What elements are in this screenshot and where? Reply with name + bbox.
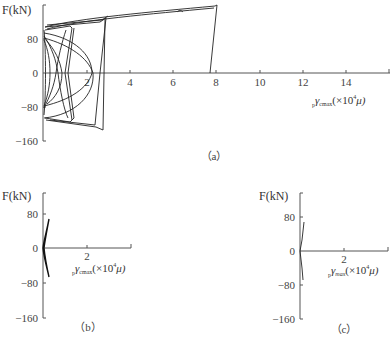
chart-c-xlabel: pγmax(×104μ) [328, 264, 379, 278]
chart-a-xtick-label: 6 [170, 76, 176, 88]
chart-a-xlabel: pγcmax(×104μ) [312, 94, 366, 108]
chart-c-ytick-label: −160 [272, 313, 295, 325]
chart-b-xlabel: pγcmax(×104μ) [72, 262, 126, 276]
chart-a-ytick-label: −160 [15, 135, 38, 147]
chart-a-xtick-label: 4 [127, 76, 133, 88]
chart-a-xtick-label: 12 [298, 76, 309, 88]
chart-a-caption: （a） [201, 150, 228, 162]
chart-b-ytick-label: 80 [27, 208, 39, 220]
chart-a-ytick-label: 0 [33, 67, 39, 79]
chart-a-xtick-label: 8 [213, 76, 219, 88]
chart-b-ytick-label: 0 [33, 242, 39, 254]
chart-a-ylabel: F(kN) [2, 3, 31, 17]
chart-b-ytick-label: −80 [21, 277, 39, 289]
chart-c-ytick-label: −80 [278, 279, 296, 291]
chart-a-ytick-label: 80 [27, 33, 39, 45]
chart-a-curves [44, 5, 217, 130]
chart-b-ytick-label: −160 [15, 312, 38, 324]
chart-a-xtick-label: 2 [84, 76, 90, 88]
chart-a-xtick-label: 10 [255, 76, 267, 88]
chart-a-xtick-label: 14 [341, 76, 353, 88]
chart-c-ytick-label: 0 [290, 245, 296, 257]
chart-c-caption: （c） [331, 323, 358, 335]
chart-a-ytick-label: −80 [21, 101, 39, 113]
chart-b: F(kN) 80 0 −80 −160 2 pγcmax(×104μ) （b） [2, 189, 131, 333]
chart-c: F(kN) 80 0 −80 −160 2 pγmax(×104μ) （c） [259, 189, 388, 335]
chart-a: F(kN) 80 0 −80 −160 2 4 6 8 10 12 14 pγc… [2, 3, 390, 162]
chart-c-ylabel: F(kN) [259, 189, 288, 203]
figure: F(kN) 80 0 −80 −160 2 4 6 8 10 12 14 pγc… [0, 0, 392, 342]
chart-b-ylabel: F(kN) [2, 189, 31, 203]
chart-a-xticks [87, 69, 389, 73]
chart-b-caption: （b） [74, 321, 102, 333]
chart-c-ytick-label: 80 [284, 211, 296, 223]
chart-b-xtick-label: 2 [84, 250, 90, 262]
